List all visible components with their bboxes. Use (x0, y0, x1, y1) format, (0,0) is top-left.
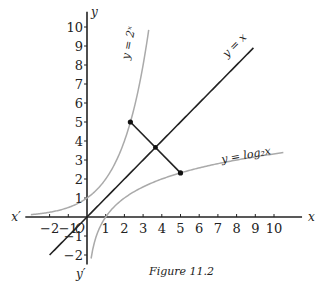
y-tick-label: 1 (75, 191, 83, 206)
y-neg-axis-label: y′ (75, 267, 86, 281)
data-point (178, 170, 183, 175)
y-tick-label: −2 (64, 248, 83, 263)
data-point (128, 119, 133, 124)
x-tick-label: 7 (214, 221, 222, 236)
y-tick-label: 3 (75, 153, 83, 168)
x-tick-label: 8 (232, 221, 240, 236)
x-tick-label: 3 (139, 221, 147, 236)
y-tick-label: 2 (75, 172, 83, 187)
series-label: y = 2ˣ (119, 25, 138, 61)
x-tick-label: 10 (266, 221, 283, 236)
x-tick-label: 1 (102, 221, 110, 236)
figure-caption: Figure 11.2 (148, 265, 214, 278)
x-tick-label: 9 (251, 221, 259, 236)
x-tick-label: 2 (120, 221, 128, 236)
y-tick-label: 7 (75, 77, 83, 92)
intersection-point (153, 145, 158, 150)
origin-label: O (75, 222, 85, 236)
x-tick-label: 5 (176, 221, 184, 236)
series-log2-line (91, 153, 283, 259)
series-label: y = log₂x (219, 144, 272, 166)
x-axis-label: x (308, 210, 315, 224)
y-tick-label: 9 (75, 39, 83, 54)
x-tick-label: 4 (158, 221, 166, 236)
y-tick-label: 4 (75, 134, 83, 149)
x-tick-label: 6 (195, 221, 203, 236)
y-tick-label: 10 (66, 20, 83, 35)
x-neg-axis-label: x′ (11, 210, 21, 224)
function-graph: −2−112345678910−2−112345678910xyx′y′Oy =… (0, 0, 324, 291)
x-tick-label: −2 (40, 221, 59, 236)
y-tick-label: 5 (75, 115, 83, 130)
y-tick-label: 8 (75, 58, 83, 73)
y-tick-label: 6 (75, 96, 83, 111)
y-axis-label: y (90, 5, 98, 19)
